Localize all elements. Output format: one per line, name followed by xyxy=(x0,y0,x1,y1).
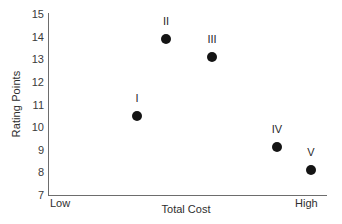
y-tick-label: 13 xyxy=(22,54,44,65)
data-point-marker xyxy=(207,52,217,62)
y-tick-label: 10 xyxy=(22,122,44,133)
y-tick-label: 7 xyxy=(22,190,44,201)
x-axis-endpoint-low: Low xyxy=(50,197,70,209)
data-point-label: II xyxy=(146,16,186,27)
x-axis-line xyxy=(48,195,327,196)
y-tick-label: 12 xyxy=(22,77,44,88)
x-axis-title: Total Cost xyxy=(140,203,232,215)
y-tick-label: 8 xyxy=(22,167,44,178)
y-axis-line xyxy=(48,13,49,196)
data-point-marker xyxy=(132,111,142,121)
data-point-label: IV xyxy=(257,124,297,135)
y-tick-label: 11 xyxy=(22,100,44,111)
y-tick-label: 14 xyxy=(22,32,44,43)
data-point-marker xyxy=(272,142,282,152)
data-point-marker xyxy=(306,165,316,175)
x-axis-endpoint-high: High xyxy=(295,197,318,209)
data-point-label: I xyxy=(117,93,157,104)
y-tick-label: 15 xyxy=(22,9,44,20)
scatter-chart: Rating Points 151413121110987 IIIIIIIVV … xyxy=(0,0,342,224)
y-axis-title: Rating Points xyxy=(10,54,22,154)
data-point-label: III xyxy=(192,34,232,45)
y-tick-label: 9 xyxy=(22,145,44,156)
data-point-marker xyxy=(161,34,171,44)
y-axis-tick-labels: 151413121110987 xyxy=(22,0,44,224)
data-point-label: V xyxy=(291,147,331,158)
